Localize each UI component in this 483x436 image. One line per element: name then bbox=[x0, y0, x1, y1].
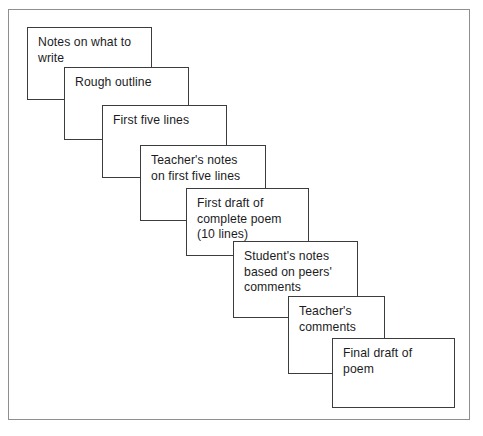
stack-card-label: Final draft of poem bbox=[343, 346, 448, 377]
stack-card-label: Teacher's notes on first five lines bbox=[151, 153, 259, 184]
stack-card-label: First five lines bbox=[113, 113, 220, 129]
stack-card-label: Teacher's comments bbox=[299, 304, 378, 335]
stack-card-label: Notes on what to write bbox=[38, 35, 145, 66]
diagram-canvas: Notes on what to write Rough outline Fir… bbox=[0, 0, 483, 436]
stack-card-label: Student's notes based on peers' comments bbox=[244, 249, 351, 296]
stack-card-label: Rough outline bbox=[75, 75, 182, 91]
stack-card-label: First draft of complete poem (10 lines) bbox=[197, 196, 302, 243]
stack-card-final-draft-of-poem[interactable]: Final draft of poem bbox=[332, 338, 455, 408]
